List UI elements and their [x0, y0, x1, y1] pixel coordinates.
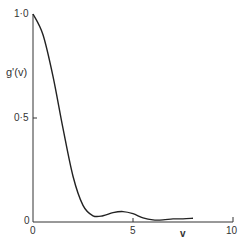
- y-tick-label-mid: 0·5: [14, 113, 28, 123]
- x-tick-label-max: 10: [226, 226, 237, 236]
- x-tick-label-mid: 5: [130, 226, 136, 236]
- x-axis-label: v: [180, 229, 186, 239]
- y-tick-label-top: 1·0: [14, 9, 28, 19]
- chart-plot: [0, 0, 242, 241]
- y-tick-label-zero: 0: [24, 216, 30, 226]
- x-tick-label-zero: 0: [30, 226, 36, 236]
- y-axis-label: g'(v): [6, 67, 27, 77]
- data-line: [33, 14, 193, 220]
